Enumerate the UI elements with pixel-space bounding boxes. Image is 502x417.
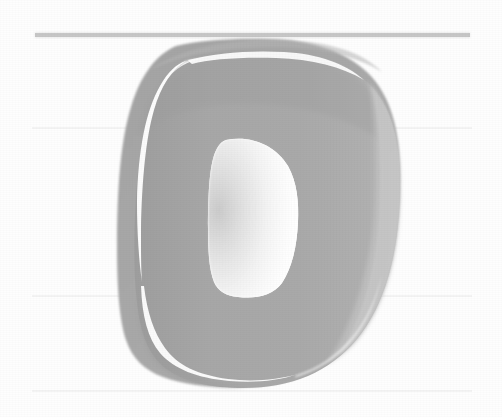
letter-d-artwork: Letter D Bold rounded gray letter D draw… — [0, 0, 502, 417]
guide-line-top-rule-soft — [35, 32, 470, 37]
guide-line-baseline-faint-rule — [32, 391, 472, 392]
scanned-letter-canvas: Letter D Bold rounded gray letter D draw… — [0, 0, 502, 417]
glyph-d — [117, 39, 400, 388]
glyph-counter-inner-shadow — [208, 139, 298, 298]
